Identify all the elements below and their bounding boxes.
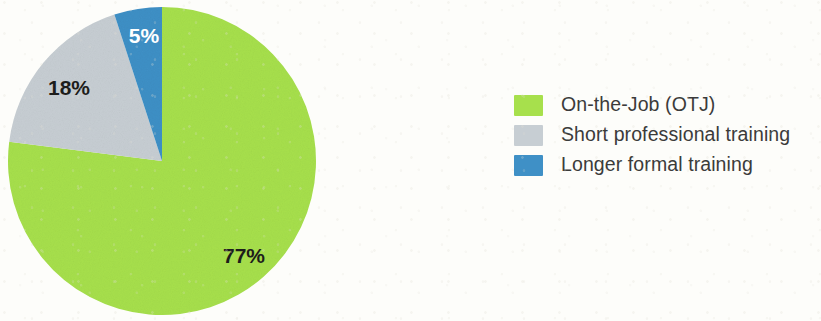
pie-slices-group	[8, 7, 316, 315]
pie-chart-svg: 77%18%5%	[7, 5, 319, 317]
legend-label-longer-formal-training: Longer formal training	[561, 155, 753, 175]
legend-swatch-on-the-job	[514, 95, 543, 116]
pie-slice-label: 77%	[223, 244, 265, 267]
legend-swatch-longer-formal-training	[514, 155, 543, 176]
pie-chart: 77%18%5%	[7, 5, 319, 317]
legend-swatch-short-professional-training	[514, 125, 543, 146]
pie-slice-label: 18%	[48, 76, 90, 99]
legend-label-on-the-job: On-the-Job (OTJ)	[561, 95, 715, 115]
legend-item-longer-formal-training[interactable]: Longer formal training	[514, 150, 814, 180]
pie-chart-figure: 77%18%5% On-the-Job (OTJ) Short professi…	[0, 0, 821, 321]
chart-legend: On-the-Job (OTJ) Short professional trai…	[514, 90, 814, 180]
legend-item-short-professional-training[interactable]: Short professional training	[514, 120, 814, 150]
legend-item-on-the-job[interactable]: On-the-Job (OTJ)	[514, 90, 814, 120]
legend-label-short-professional-training: Short professional training	[561, 125, 790, 145]
pie-slice-label: 5%	[129, 24, 160, 47]
